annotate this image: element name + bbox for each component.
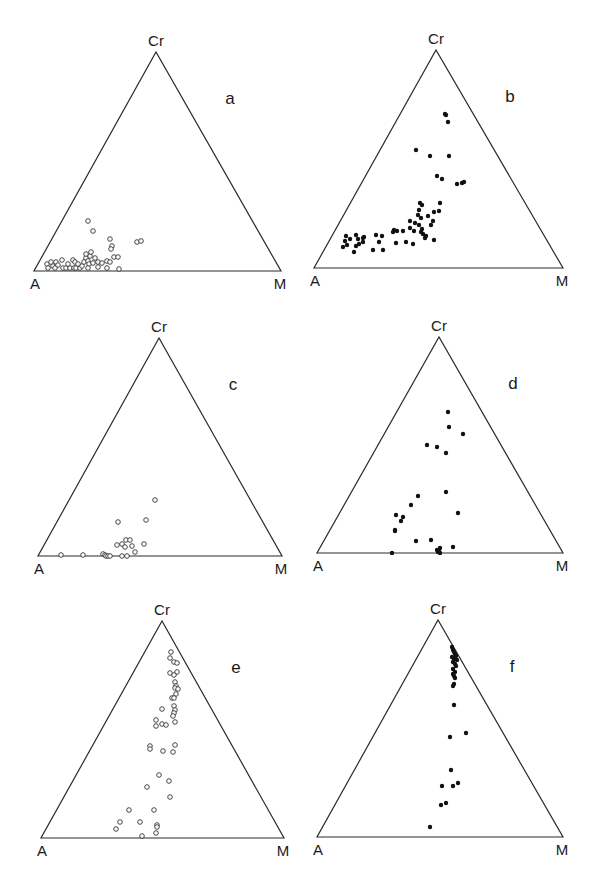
- data-point: [172, 696, 177, 701]
- vertex-label-m: M: [556, 841, 569, 858]
- data-point: [345, 243, 349, 247]
- data-point: [431, 219, 435, 223]
- panel-d: CrAMd: [313, 317, 568, 574]
- data-point: [172, 673, 177, 678]
- ternary-triangle: [38, 338, 282, 556]
- data-point: [425, 443, 429, 447]
- panel-letter: c: [229, 375, 238, 394]
- panel-letter: f: [510, 657, 515, 676]
- data-point: [374, 233, 378, 237]
- vertex-label-a: A: [30, 275, 40, 292]
- data-point: [152, 808, 157, 813]
- data-point: [120, 554, 125, 559]
- data-point: [444, 801, 448, 805]
- data-point: [138, 820, 143, 825]
- ternary-triangle: [34, 52, 281, 271]
- data-point: [361, 240, 365, 244]
- data-point: [86, 266, 91, 271]
- panel-c: CrAMc: [34, 318, 287, 577]
- data-point: [420, 203, 424, 207]
- data-point: [399, 519, 403, 523]
- data-point: [173, 720, 178, 725]
- data-point: [357, 242, 361, 246]
- ternary-triangle: [41, 621, 284, 838]
- data-point: [105, 266, 110, 271]
- data-point: [171, 714, 176, 719]
- data-point: [161, 749, 166, 754]
- data-point: [168, 795, 173, 800]
- data-point: [168, 656, 173, 661]
- data-point: [133, 550, 138, 555]
- data-point: [438, 201, 442, 205]
- vertex-label-cr: Cr: [148, 32, 164, 49]
- data-point: [91, 261, 96, 266]
- data-point: [428, 825, 432, 829]
- data-point: [429, 223, 433, 227]
- ternary-triangle: [314, 50, 563, 268]
- data-point: [140, 834, 145, 839]
- data-point: [451, 784, 455, 788]
- vertex-label-a: A: [34, 560, 44, 577]
- ternary-triangle: [317, 337, 563, 553]
- data-point: [412, 229, 416, 233]
- data-point: [390, 551, 394, 555]
- data-point: [456, 781, 460, 785]
- data-point: [464, 731, 468, 735]
- vertex-label-m: M: [556, 557, 569, 574]
- data-point: [456, 511, 460, 515]
- data-point: [439, 803, 443, 807]
- data-point: [356, 237, 360, 241]
- vertex-label-cr: Cr: [154, 601, 170, 618]
- data-point: [154, 831, 159, 836]
- data-point: [448, 735, 452, 739]
- data-point: [455, 182, 459, 186]
- data-point: [421, 232, 425, 236]
- data-point: [444, 451, 448, 455]
- vertex-label-m: M: [277, 842, 290, 859]
- data-point: [440, 784, 444, 788]
- data-point: [423, 236, 427, 240]
- data-point: [125, 554, 130, 559]
- data-point: [155, 825, 160, 830]
- panel-letter: d: [508, 374, 517, 393]
- data-point: [154, 718, 159, 723]
- data-point: [432, 238, 436, 242]
- vertex-label-m: M: [556, 272, 569, 289]
- data-point: [81, 553, 86, 558]
- data-point: [142, 542, 147, 547]
- data-point: [91, 229, 96, 234]
- data-point: [408, 219, 412, 223]
- data-point: [100, 261, 105, 266]
- vertex-label-cr: Cr: [430, 600, 446, 617]
- data-point: [348, 237, 352, 241]
- vertex-label-a: A: [310, 272, 320, 289]
- data-point: [108, 260, 113, 265]
- data-point: [394, 513, 398, 517]
- data-point: [160, 707, 165, 712]
- data-point: [49, 260, 54, 265]
- data-point: [449, 768, 453, 772]
- data-point: [361, 236, 365, 240]
- data-point: [352, 250, 356, 254]
- data-point: [116, 520, 121, 525]
- data-point: [414, 539, 418, 543]
- data-point: [89, 250, 94, 255]
- data-point: [116, 255, 121, 260]
- data-point: [118, 820, 123, 825]
- data-point: [344, 234, 348, 238]
- data-point: [60, 258, 65, 263]
- data-point: [451, 672, 455, 676]
- data-point: [416, 494, 420, 498]
- data-point: [435, 174, 439, 178]
- data-point: [447, 425, 451, 429]
- data-point: [341, 245, 345, 249]
- data-point: [429, 538, 433, 542]
- data-point: [414, 148, 418, 152]
- data-point: [59, 553, 64, 558]
- data-point: [176, 687, 181, 692]
- data-point: [108, 554, 113, 559]
- data-point: [394, 241, 398, 245]
- panel-letter: a: [225, 89, 235, 108]
- data-point: [453, 676, 457, 680]
- data-point: [130, 544, 135, 549]
